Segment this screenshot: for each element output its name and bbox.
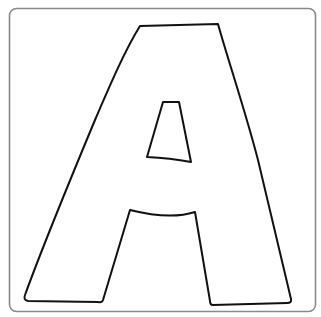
letter-a-coloring-page [0,0,321,317]
